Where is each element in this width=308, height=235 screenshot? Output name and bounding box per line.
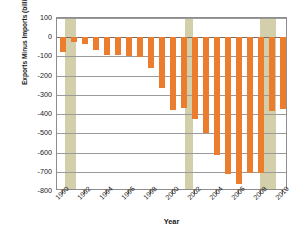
gridline — [57, 18, 286, 19]
bar — [115, 37, 121, 54]
y-tick-label: 100 — [40, 13, 52, 22]
bar — [60, 37, 66, 52]
y-tick-label: -400 — [38, 109, 52, 118]
bar — [104, 37, 110, 55]
y-tick-label: -600 — [38, 147, 52, 156]
bar — [280, 37, 286, 109]
y-tick-label: -500 — [38, 128, 52, 137]
bar-chart: Exports Minus Imports (billions of dolla… — [0, 0, 308, 235]
x-axis-tick-labels: 1990199219941996199820002002200420062008… — [0, 190, 308, 220]
bar — [236, 37, 242, 183]
recession-band — [65, 18, 75, 189]
bar — [159, 37, 165, 87]
bar — [71, 37, 77, 42]
x-axis-title: Year — [56, 217, 287, 226]
y-tick-label: -100 — [38, 51, 52, 60]
bar — [214, 37, 220, 155]
bar — [82, 37, 88, 43]
bar — [269, 37, 275, 111]
y-tick-label: -200 — [38, 70, 52, 79]
y-tick-label: -700 — [38, 166, 52, 175]
plot-area — [56, 17, 287, 190]
bar — [170, 37, 176, 110]
bar — [137, 37, 143, 56]
bar — [192, 37, 198, 119]
bar — [148, 37, 154, 68]
bar — [225, 37, 231, 174]
y-tick-label: -300 — [38, 89, 52, 98]
bar — [181, 37, 187, 108]
bar — [258, 37, 264, 173]
y-tick-label: 0 — [48, 32, 52, 41]
bar — [203, 37, 209, 133]
bar — [93, 37, 99, 49]
bar — [126, 37, 132, 55]
bar — [247, 37, 253, 173]
